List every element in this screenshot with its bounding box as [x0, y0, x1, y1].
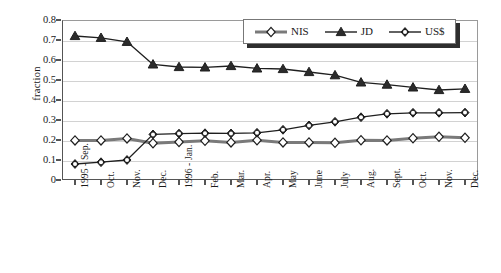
x-tick-mark	[126, 180, 127, 185]
x-tick-label: Mar.	[235, 170, 246, 188]
y-tick-label: 0.3	[43, 115, 56, 125]
x-tick-label: Sept.	[391, 168, 402, 188]
plot-area	[62, 20, 478, 180]
x-tick-label: Dec.	[157, 170, 168, 188]
x-tick-mark	[74, 180, 75, 185]
x-tick-label: July	[339, 172, 350, 188]
x-tick-mark	[464, 180, 465, 185]
y-tick-mark	[56, 99, 61, 100]
x-tick-mark	[334, 180, 335, 185]
x-tick-label: Apr.	[261, 171, 272, 188]
y-tick-label: 0.7	[43, 35, 56, 45]
x-tick-label: Nov.	[131, 169, 142, 188]
y-tick-label: 0.5	[43, 75, 56, 85]
x-tick-label: May	[287, 170, 298, 188]
x-tick-mark	[204, 180, 205, 185]
y-tick-mark	[56, 39, 61, 40]
legend-swatch-circle-x-icon	[388, 25, 422, 39]
gridline	[63, 81, 477, 82]
x-tick-label: 1996 - Jan.	[183, 145, 194, 188]
x-tick-mark	[386, 180, 387, 185]
x-tick-mark	[308, 180, 309, 185]
legend-label: US$	[425, 26, 445, 37]
x-tick-mark	[438, 180, 439, 185]
legend-item-usd[interactable]: US$	[388, 25, 445, 39]
chart-legend: NISJDUS$	[243, 19, 456, 44]
data-point-open-diamond	[267, 27, 275, 36]
x-tick-label: 1995 - Sep.	[79, 143, 90, 188]
y-tick-label: 0.6	[43, 55, 56, 65]
y-tick-mark	[56, 79, 61, 80]
x-tick-label: Feb.	[209, 171, 220, 188]
x-tick-mark	[256, 180, 257, 185]
x-tick-label: Oct.	[417, 171, 428, 188]
x-tick-mark	[152, 180, 153, 185]
x-tick-mark	[178, 180, 179, 185]
y-tick-label: 0.1	[43, 155, 56, 165]
x-tick-label: Dec.	[469, 170, 480, 188]
legend-item-jd[interactable]: JD	[324, 25, 373, 39]
legend-item-nis[interactable]: NIS	[254, 25, 309, 39]
gridline	[63, 161, 477, 162]
y-tick-mark	[56, 159, 61, 160]
legend-swatch-open-diamond-icon	[254, 25, 288, 39]
gridline	[63, 101, 477, 102]
gridline	[63, 121, 477, 122]
x-tick-label: Aug.	[365, 169, 376, 188]
y-tick-label: 0.2	[43, 135, 56, 145]
y-tick-mark	[56, 59, 61, 60]
y-axis-ticks: 0.80.70.60.50.40.30.20.10	[0, 0, 56, 200]
y-tick-mark	[56, 139, 61, 140]
x-tick-mark	[282, 180, 283, 185]
legend-label: JD	[361, 26, 373, 37]
legend-swatch-filled-triangle-icon	[324, 25, 358, 39]
y-tick-mark	[56, 119, 61, 120]
x-tick-mark	[230, 180, 231, 185]
x-tick-mark	[412, 180, 413, 185]
y-tick-label: 0.8	[43, 15, 56, 25]
data-point-circle-x	[401, 27, 409, 36]
y-tick-mark	[56, 19, 61, 20]
gridline	[63, 141, 477, 142]
gridline	[63, 61, 477, 62]
y-tick-mark	[56, 179, 61, 180]
x-tick-label: June	[313, 170, 324, 188]
x-tick-mark	[360, 180, 361, 185]
legend-label: NIS	[291, 26, 309, 37]
y-tick-label: 0.4	[43, 95, 56, 105]
chart-container: fraction 0.80.70.60.50.40.30.20.10 1995 …	[0, 0, 501, 273]
x-tick-mark	[100, 180, 101, 185]
x-tick-label: Oct.	[105, 171, 116, 188]
x-tick-label: Nov.	[443, 169, 454, 188]
